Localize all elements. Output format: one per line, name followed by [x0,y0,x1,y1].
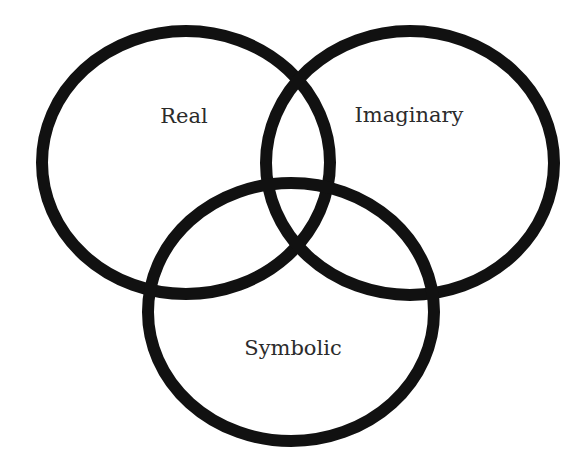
imaginary-circle [266,31,554,295]
symbolic-label: Symbolic [244,336,341,360]
real-label: Real [160,104,208,128]
real-circle [42,31,330,294]
borromean-venn-diagram: Real Imaginary Symbolic [0,0,583,469]
symbolic-circle [148,183,434,441]
imaginary-label: Imaginary [355,103,464,127]
